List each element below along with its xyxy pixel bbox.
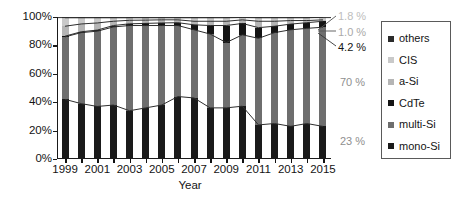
x-tick-mark <box>307 159 309 163</box>
x-tick-mark <box>178 159 180 163</box>
y-tick-label: 20% <box>0 125 52 137</box>
x-tick-label-2005: 2005 <box>145 164 179 176</box>
x-tick-label-2003: 2003 <box>113 164 147 176</box>
legend-label: CIS <box>399 55 417 66</box>
annotation-cdte: 4.2 % <box>338 42 366 53</box>
legend-swatch-icon <box>388 36 394 42</box>
legend-label: a-Si <box>399 76 419 87</box>
x-tick-mark <box>275 159 277 163</box>
x-tick-label-2009: 2009 <box>209 164 243 176</box>
legend-label: others <box>399 33 430 44</box>
y-tick-label: 0% <box>0 153 52 165</box>
y-tick-label: 100% <box>0 11 52 23</box>
x-tick-label-2007: 2007 <box>177 164 211 176</box>
x-tick-label-2013: 2013 <box>274 164 308 176</box>
annotation-asi: 1.0 % <box>338 27 366 38</box>
legend-swatch-icon <box>388 122 394 128</box>
legend-item-a-si[interactable]: a-Si <box>388 71 450 93</box>
legend: othersCISa-SiCdTemulti-Simono-Si <box>381 21 451 159</box>
legend-item-mono-si[interactable]: mono-Si <box>388 136 450 158</box>
chart-figure: 100%80%60%40%20%0% 199920012003200520072… <box>0 0 458 197</box>
legend-item-others[interactable]: others <box>388 28 450 50</box>
x-tick-mark <box>81 159 83 163</box>
x-tick-label-2011: 2011 <box>241 164 275 176</box>
x-tick-label-1999: 1999 <box>48 164 82 176</box>
x-tick-mark <box>242 159 244 163</box>
annotation-cis: 1.8 % <box>338 11 366 22</box>
x-tick-label-2001: 2001 <box>80 164 114 176</box>
legend-swatch-icon <box>388 79 394 85</box>
y-tick-mark <box>53 159 57 160</box>
annotation-multisi: 70 % <box>340 77 365 88</box>
x-tick-mark <box>113 159 115 163</box>
legend-label: multi-Si <box>399 119 436 130</box>
plot-area <box>57 17 331 159</box>
legend-swatch-icon <box>388 57 394 63</box>
annotation-monosi: 23 % <box>340 136 365 147</box>
x-tick-mark <box>146 159 148 163</box>
y-tick-label: 60% <box>0 68 52 80</box>
x-axis-title: Year <box>0 179 380 191</box>
legend-swatch-icon <box>388 100 394 106</box>
legend-label: CdTe <box>399 98 425 109</box>
x-tick-mark <box>210 159 212 163</box>
x-tick-label-2015: 2015 <box>306 164 340 176</box>
legend-item-cdte[interactable]: CdTe <box>388 93 450 115</box>
legend-item-multi-si[interactable]: multi-Si <box>388 114 450 136</box>
plot-frame <box>57 17 331 159</box>
legend-label: mono-Si <box>399 141 440 152</box>
y-tick-label: 80% <box>0 39 52 51</box>
legend-swatch-icon <box>388 143 394 149</box>
y-tick-label: 40% <box>0 96 52 108</box>
legend-item-cis[interactable]: CIS <box>388 50 450 72</box>
